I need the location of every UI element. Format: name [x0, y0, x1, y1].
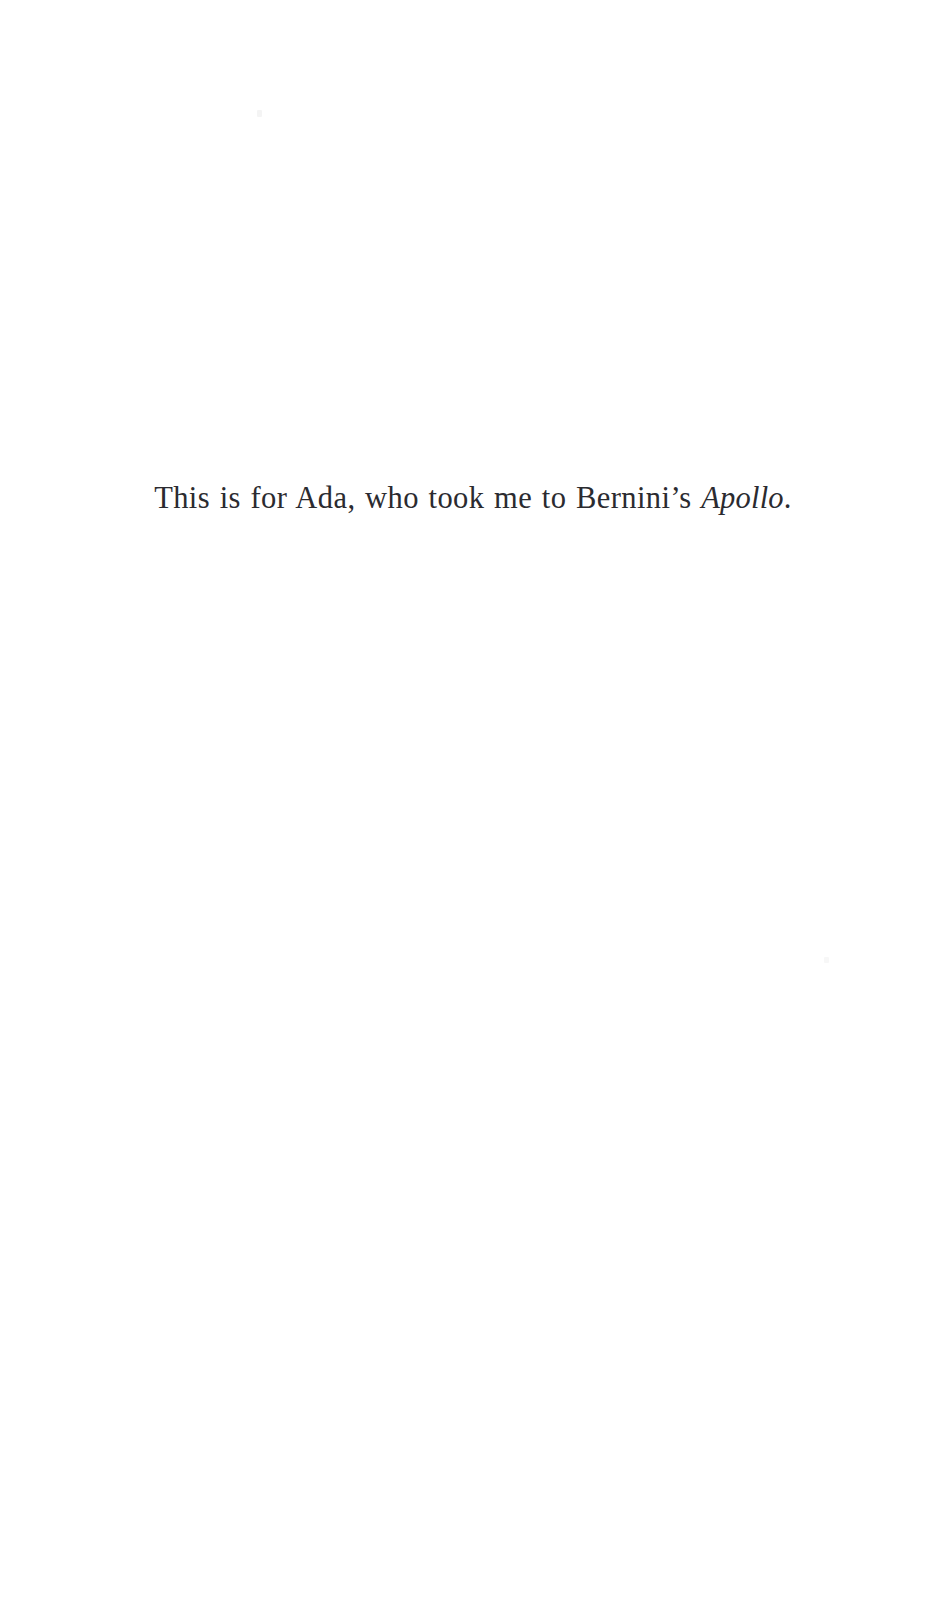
dedication-text: This is for Ada, who took me to Bernini’…	[0, 483, 946, 514]
dedication-block: This is for Ada, who took me to Bernini’…	[0, 0, 946, 1624]
dedication-page: This is for Ada, who took me to Bernini’…	[0, 0, 946, 1624]
artwork-title-apollo: Apollo	[701, 481, 784, 515]
scan-artifact-speck-lower	[824, 957, 829, 963]
dedication-trailing-period: .	[784, 481, 792, 515]
dedication-lead-text: This is for Ada, who took me to Bernini’…	[154, 481, 701, 515]
